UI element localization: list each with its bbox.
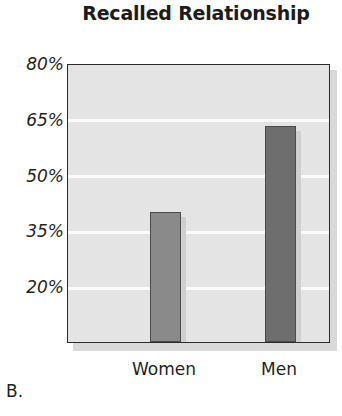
y-tick-label-65%: 65% [2,110,64,130]
gridline-65% [68,119,329,122]
plot-area [67,64,330,343]
chart-figure: Recalled Relationship 20%35%50%65%80% Wo… [0,0,342,416]
panel-label: B. [6,381,23,401]
y-tick-label-80%: 80% [2,54,64,74]
chart-title: Recalled Relationship [60,2,332,24]
x-tick-label-men: Men [219,359,339,379]
y-tick-label-35%: 35% [2,221,64,241]
y-axis: 20%35%50%65%80% [0,0,64,416]
bar-women[interactable] [150,212,181,342]
bar-men[interactable] [265,126,296,342]
y-tick-label-20%: 20% [2,277,64,297]
y-tick-label-50%: 50% [2,166,64,186]
x-tick-label-women: Women [104,359,224,379]
